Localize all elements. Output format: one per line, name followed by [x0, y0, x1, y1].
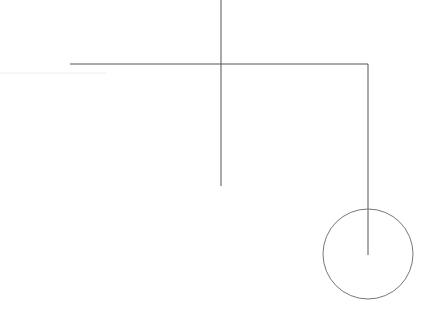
- canvas-background: [0, 0, 429, 312]
- drawing-canvas: [0, 0, 429, 312]
